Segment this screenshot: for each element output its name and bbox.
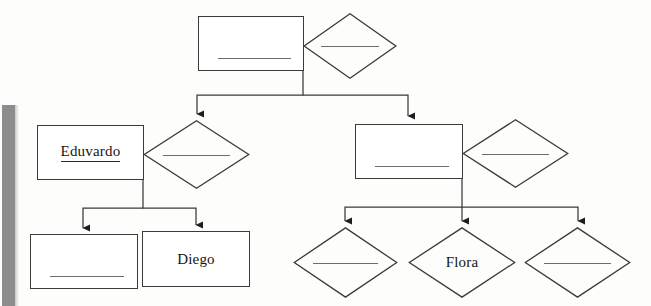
blank-name-rule — [313, 263, 378, 264]
connector-n5-n11 — [462, 207, 578, 221]
blank-name-rule — [544, 263, 610, 264]
blank-name-rule — [482, 154, 548, 155]
node-box-right-parent[interactable] — [355, 124, 463, 179]
blank-name-rule — [50, 276, 124, 277]
node-diamond-eduvardo-spouse[interactable] — [143, 120, 250, 189]
connector-n5-n9 — [345, 179, 462, 221]
diagram-canvas: Eduvardo Diego F — [0, 0, 651, 306]
node-diamond-right-child-3[interactable] — [524, 227, 631, 298]
blank-name-rule — [375, 166, 449, 167]
connector-n3-n7 — [83, 180, 143, 228]
node-label: Diego — [177, 252, 215, 267]
blank-name-rule — [321, 46, 379, 47]
node-box-eduvardo[interactable]: Eduvardo — [37, 125, 144, 180]
blank-name-rule — [163, 155, 229, 156]
node-diamond-right-child-1[interactable] — [293, 227, 398, 298]
node-diamond-flora[interactable]: Flora — [408, 227, 516, 298]
node-diamond-right-parent-spouse[interactable] — [462, 119, 569, 188]
connector-n1-n4 — [197, 70, 303, 114]
node-diamond-root-spouse[interactable] — [303, 13, 397, 79]
node-box-root-unnamed[interactable] — [198, 16, 304, 71]
blank-name-rule — [218, 58, 291, 59]
node-label: Flora — [446, 255, 479, 270]
connector-n1-n5 — [303, 95, 408, 116]
node-label: Eduvardo — [61, 144, 121, 162]
node-box-diego[interactable]: Diego — [142, 231, 250, 287]
connector-n3-n8 — [143, 208, 196, 225]
node-box-left-child-unnamed[interactable] — [30, 234, 138, 289]
